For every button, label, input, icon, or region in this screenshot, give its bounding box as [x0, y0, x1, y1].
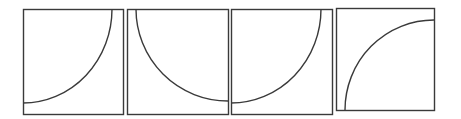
quarter-arc [136, 9, 228, 101]
panel-frame [337, 9, 435, 111]
panel-frame [128, 10, 229, 115]
quarter-circle-diagram [0, 0, 461, 119]
quarter-arc [345, 20, 434, 110]
panel-4 [337, 9, 435, 111]
panel-2 [128, 9, 229, 115]
quarter-arc [23, 9, 112, 103]
panel-3 [231, 9, 333, 115]
quarter-arc [231, 9, 321, 103]
panel-1 [23, 9, 124, 115]
panel-frame [24, 10, 124, 115]
panel-frame [232, 10, 333, 115]
